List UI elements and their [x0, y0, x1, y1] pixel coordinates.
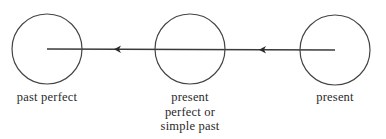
label-line: past perfect [0, 90, 94, 105]
past-perfect-label: past perfect [0, 90, 94, 105]
label-line: present [140, 90, 240, 105]
label-line: perfect or [140, 105, 240, 120]
label-line: present [285, 90, 385, 105]
timeline-line [47, 49, 335, 50]
present-label: present [285, 90, 385, 105]
label-line: simple past [140, 119, 240, 134]
present-perfect-or-simple-past-label: present perfect or simple past [140, 90, 240, 134]
